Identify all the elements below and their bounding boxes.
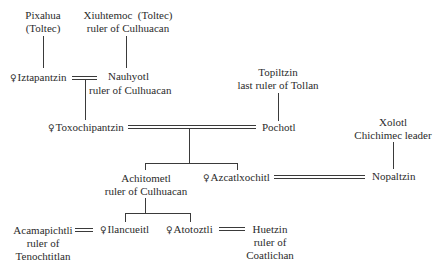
genealogy-tree: Pixahua (Toltec) Xiuhtemoc (Toltec) rule… [0, 0, 438, 266]
female-symbol-icon: ♀ [166, 225, 173, 235]
person-huetzin: Huetzin ruler of Coatlichan [246, 223, 294, 262]
person-name: Xiuhtemoc [83, 9, 132, 21]
person-atotoztli: ♀Atotoztli [166, 223, 213, 237]
person-note: (Toltec) [25, 22, 60, 35]
person-name: Nopaltzin [372, 170, 415, 182]
person-note: ruler of Culhuacan [105, 185, 187, 198]
descent-line [189, 129, 190, 163]
descent-line [125, 213, 126, 222]
descent-line [85, 80, 86, 120]
person-name: Topiltzin [237, 66, 318, 79]
person-name: Ilancueitl [108, 223, 150, 235]
person-xolotl: Xolotl Chichimec leader [354, 116, 431, 142]
person-tag: (Toltec) [138, 9, 173, 21]
person-xiuhtemoc: Xiuhtemoc (Toltec) ruler of Culhuacan [83, 9, 172, 35]
person-note: ruler of [13, 237, 72, 250]
marriage-line [274, 175, 365, 179]
person-azcatlxochitl: ♀Azcatlxochitl [203, 171, 270, 185]
descent-line [237, 163, 238, 170]
female-symbol-icon: ♀ [203, 173, 210, 183]
person-nauhyotl: Nauhyotl [108, 70, 149, 83]
descent-line [145, 198, 146, 213]
person-note: ruler of [246, 236, 294, 249]
person-name: Pixahua [25, 9, 60, 22]
person-name: Toxochipantzin [56, 121, 124, 133]
person-topiltzin: Topiltzin last ruler of Tollan [237, 66, 318, 92]
person-iztapantzin: ♀Iztapantzin [10, 71, 66, 85]
person-note: Tenochtitlan [13, 250, 72, 263]
descent-line [190, 213, 191, 222]
person-pochotl: Pochotl [262, 121, 296, 134]
person-name: Azcatlxochitl [211, 171, 270, 183]
person-name: Pochotl [262, 121, 296, 133]
marriage-line [219, 227, 245, 231]
person-note: Coatlichan [246, 249, 294, 262]
person-name: Acamapichtli [13, 224, 72, 237]
female-symbol-icon: ♀ [10, 73, 17, 83]
marriage-line [75, 228, 93, 232]
marriage-line [128, 125, 256, 129]
person-nopaltzin: Nopaltzin [372, 170, 415, 183]
person-name: Atotoztli [174, 223, 213, 235]
person-name: Achitometl [105, 172, 187, 185]
person-toxochipantzin: ♀Toxochipantzin [48, 121, 124, 135]
person-name-line: Xiuhtemoc (Toltec) [83, 9, 172, 22]
person-note: ruler of Culhuacan [89, 84, 171, 96]
person-note: last ruler of Tollan [237, 79, 318, 92]
sibling-line [125, 213, 191, 214]
person-nauhyotl-note: ruler of Culhuacan [89, 84, 171, 97]
female-symbol-icon: ♀ [100, 225, 107, 235]
person-name: Xolotl [354, 116, 431, 129]
descent-line [43, 36, 44, 68]
person-achitometl: Achitometl ruler of Culhuacan [105, 172, 187, 198]
person-name: Iztapantzin [18, 71, 67, 83]
sibling-line [145, 163, 238, 164]
person-name: Huetzin [246, 223, 294, 236]
descent-line [278, 93, 279, 121]
descent-line [145, 163, 146, 170]
person-acamapichtli: Acamapichtli ruler of Tenochtitlan [13, 224, 72, 263]
person-pixahua: Pixahua (Toltec) [25, 9, 60, 35]
descent-line [126, 36, 127, 68]
person-name: Nauhyotl [108, 70, 149, 82]
female-symbol-icon: ♀ [48, 123, 55, 133]
person-ilancueitl: ♀Ilancueitl [100, 223, 149, 237]
person-note: Chichimec leader [354, 129, 431, 142]
person-note: ruler of Culhuacan [83, 22, 172, 35]
descent-line [393, 142, 394, 169]
